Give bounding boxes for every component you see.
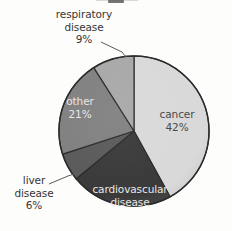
pie-label-cancer: cancer 42% — [148, 108, 206, 133]
pie-label-cardiovascular-disease-line1: cardiovascular — [76, 183, 184, 196]
pie-callout-liver-disease-line2: disease — [2, 187, 66, 200]
pie-label-cancer-percent: 42% — [148, 121, 206, 134]
pie-callout-respiratory-disease-percent: 9% — [42, 33, 126, 46]
pie-callout-respiratory-disease-line2: disease — [42, 21, 126, 34]
pie-label-other-percent: 21% — [54, 108, 106, 121]
pie-callout-liver-disease-percent: 6% — [2, 199, 66, 212]
pie-label-cancer-name: cancer — [148, 108, 206, 121]
pie-label-cardiovascular-disease: cardiovascular disease — [76, 183, 184, 208]
pie-label-cardiovascular-disease-line2: disease — [76, 196, 184, 209]
pie-callout-respiratory-disease: respiratory disease 9% — [42, 8, 126, 46]
pie-callout-respiratory-disease-line1: respiratory — [42, 8, 126, 21]
pie-chart-screenshot: cancer 42% other 21% cardiovascular dise… — [0, 0, 232, 231]
pie-label-other: other 21% — [54, 95, 106, 120]
pie-label-other-name: other — [54, 95, 106, 108]
pie-callout-liver-disease: liver disease 6% — [2, 174, 66, 212]
pie-callout-liver-disease-line1: liver — [2, 174, 66, 187]
